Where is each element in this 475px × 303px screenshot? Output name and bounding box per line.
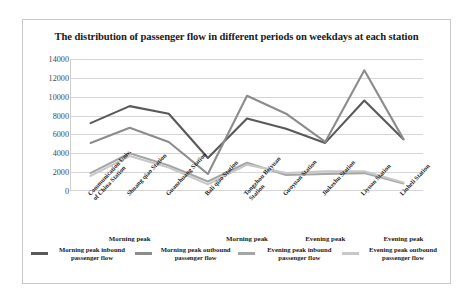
period-caption-3: Evening peak xyxy=(371,235,435,242)
y-axis-tick: 8000 xyxy=(29,111,69,120)
legend-swatch-icon xyxy=(135,252,152,255)
y-axis-tick: 12000 xyxy=(29,73,69,82)
y-axis-tick: 4000 xyxy=(29,149,69,158)
period-caption-0: Morning peak xyxy=(98,235,162,242)
y-axis-tick: 2000 xyxy=(29,168,69,177)
period-caption-2: Evening peak xyxy=(293,235,357,242)
legend-swatch-icon xyxy=(342,252,359,255)
legend-swatch-icon xyxy=(238,252,255,255)
x-axis-tick-labels: Communication Univ. of China StationShua… xyxy=(71,192,423,238)
period-caption-1: Morning peak xyxy=(215,235,279,242)
y-axis-tick: 14000 xyxy=(29,55,69,64)
legend-swatch-icon xyxy=(31,252,48,255)
chart-legend: Morning peak inbound passenger flowMorni… xyxy=(31,246,444,278)
legend-label: Morning peak outbound passenger flow xyxy=(155,246,237,262)
legend-label: Morning peak inbound passenger flow xyxy=(51,246,133,262)
y-axis-tick: 0 xyxy=(29,187,69,196)
chart-card: The distribution of passenger flow in di… xyxy=(22,19,451,284)
legend-item-0[interactable]: Morning peak inbound passenger flow xyxy=(31,246,133,262)
y-axis-tick: 6000 xyxy=(29,130,69,139)
legend-item-3[interactable]: Evening peak outbound passenger flow xyxy=(342,246,444,262)
legend-label: Evening peak outbound passenger flow xyxy=(362,246,444,262)
y-axis-tick-labels: 14000120001000080006000400020000 xyxy=(29,59,69,191)
legend-label: Evening peak inbound passenger flow xyxy=(258,246,340,262)
legend-item-2[interactable]: Evening peak inbound passenger flow xyxy=(238,246,340,262)
y-axis-tick: 10000 xyxy=(29,92,69,101)
legend-item-1[interactable]: Morning peak outbound passenger flow xyxy=(135,246,237,262)
